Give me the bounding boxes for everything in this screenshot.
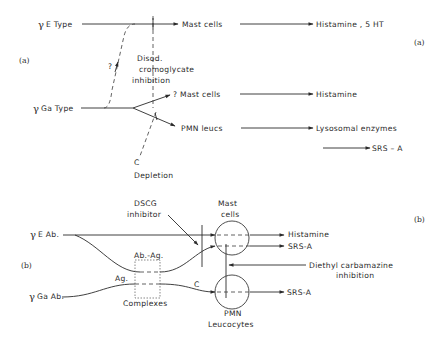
complexes-label: Complexes	[123, 299, 167, 308]
srs-a-pmn-b: SRS-A	[287, 288, 312, 297]
part-a: (a) (a) γ E Type Mast cells Histamine , …	[19, 16, 424, 180]
ige-ab-text: E Ab.	[38, 230, 59, 239]
question-arrow	[115, 62, 118, 72]
part-a-label-right: (a)	[414, 38, 424, 47]
igga-type-label: γ Ga Type	[33, 103, 74, 114]
dec-line-2: inhibition	[336, 271, 374, 280]
dscg-label: DSCG inhibitor	[127, 199, 162, 219]
mast-cells-b-line-1: Mast	[218, 199, 237, 208]
part-b: (b) (b) DSCG inhibitor Mast cells γ E Ab…	[21, 199, 425, 329]
complex-to-mast-curve	[160, 246, 215, 272]
ab-ag-label: Ab.-Ag.	[134, 251, 164, 260]
dscg-pointer-arrow	[168, 215, 198, 245]
mast-cells-a1: Mast cells	[182, 20, 223, 29]
pmn-line-1: PMN	[224, 309, 242, 318]
branch-to-pmn-arrow	[133, 108, 175, 126]
pmn-leucs: PMN leucs	[181, 124, 223, 133]
pmn-line-2: Leucocytes	[208, 320, 254, 329]
dscg-line-2: inhibitor	[127, 210, 162, 219]
gamma-symbol: γ	[38, 19, 44, 30]
cromoglycate-line-2: cromoglycate	[139, 65, 194, 74]
ag-label: Ag.	[115, 274, 128, 283]
srs-a-mast-b: SRS-A	[288, 242, 313, 251]
part-a-label-left: (a)	[19, 56, 29, 65]
histamine-a2: Histamine	[316, 90, 357, 99]
mast-cells-a2: ? Mast cells	[173, 90, 221, 99]
complexes-box	[135, 260, 160, 298]
part-b-label-left: (b)	[21, 261, 32, 270]
ige-type-label: γ E Type	[38, 19, 72, 30]
cromoglycate-line-1: Disod.	[137, 54, 163, 63]
dscg-line-1: DSCG	[134, 199, 157, 208]
igga-ab-label: γ Ga Ab.	[29, 291, 64, 302]
pmn-block-tick	[155, 113, 157, 120]
lysosomal-enzymes: Lysosomal enzymes	[316, 124, 397, 133]
igga-type-text: Ga Type	[41, 104, 74, 113]
dec-label: Diethyl carbamazine inhibition	[309, 261, 393, 280]
mast-cells-b-line-2: cells	[221, 210, 240, 219]
complex-to-pmn-curve	[160, 284, 215, 292]
igga-to-complex-curve	[62, 284, 135, 297]
branch-to-mast-arrow	[133, 95, 170, 108]
gamma-symbol: γ	[29, 291, 35, 302]
c-label-b: C	[194, 280, 200, 289]
cromoglycate-line-3: inhibition	[132, 76, 170, 85]
part-b-label-right: (b)	[414, 215, 425, 224]
mediator-release-diagram: (a) (a) γ E Type Mast cells Histamine , …	[0, 0, 445, 345]
pmn-label: PMN Leucocytes	[208, 309, 254, 329]
c-depletion-line-1: C	[134, 158, 140, 167]
dec-line-1: Diethyl carbamazine	[309, 261, 393, 270]
mast-cells-b-label: Mast cells	[218, 199, 240, 219]
histamine-5ht: Histamine , 5 HT	[316, 20, 384, 29]
c-depletion-line-2: Depletion	[134, 171, 173, 180]
cromoglycate-label: Disod. cromoglycate inhibition	[132, 54, 194, 85]
histamine-b: Histamine	[288, 230, 329, 239]
igga-ab-text: Ga Ab.	[37, 292, 64, 301]
gamma-symbol: γ	[33, 103, 39, 114]
ige-type-text: E Type	[46, 20, 72, 29]
question-mark: ?	[108, 62, 112, 71]
c-depletion-line	[140, 112, 156, 156]
c-depletion-label: C Depletion	[134, 158, 173, 180]
mast-cell-circle	[215, 221, 249, 255]
ige-to-complex-curve	[75, 235, 140, 272]
gamma-symbol: γ	[30, 229, 36, 240]
srs-a-label: SRS – A	[372, 144, 403, 153]
ige-ab-label: γ E Ab.	[30, 229, 59, 240]
